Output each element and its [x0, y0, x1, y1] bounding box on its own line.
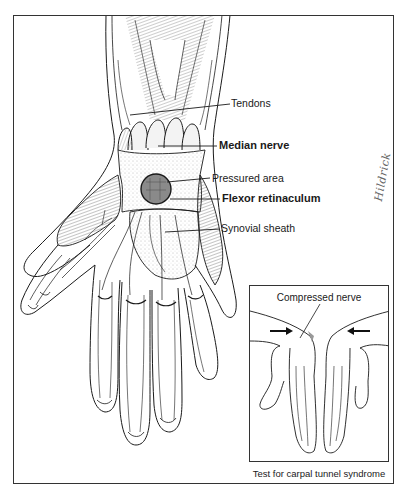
label-median-nerve: Median nerve	[219, 140, 289, 151]
inset-phalen-test: Compressed nerve	[249, 285, 389, 462]
label-synovial-sheath: Synovial sheath	[221, 223, 295, 234]
label-flexor-retinaculum: Flexor retinaculum	[222, 193, 320, 204]
inset-hands-illustration	[250, 286, 389, 462]
label-tendons: Tendons	[231, 98, 271, 109]
label-pressured-area: Pressured area	[212, 173, 284, 184]
inset-caption: Test for carpal tunnel syndrome	[249, 468, 389, 479]
arrow-right-icon	[270, 327, 293, 335]
arrow-left-icon	[347, 327, 370, 335]
